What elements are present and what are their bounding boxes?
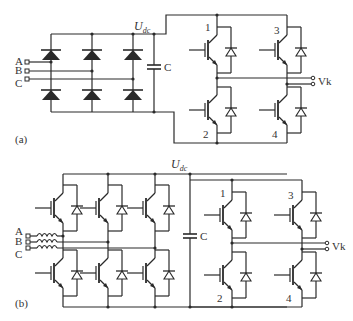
panel-b-label: (b) xyxy=(15,297,28,310)
switch-2-label: 2 xyxy=(217,292,223,304)
capacitor-label: C xyxy=(200,230,207,242)
switch-4-label: 4 xyxy=(272,128,278,140)
udc-label: Udc xyxy=(171,157,188,173)
switch-4-label: 4 xyxy=(286,292,292,304)
panel-a: A B C Udc C 1 2 3 4 Vk (a) xyxy=(15,13,332,146)
input-c-label: C xyxy=(15,77,22,89)
output-vk-label: Vk xyxy=(318,75,332,87)
switch-3-label: 3 xyxy=(274,24,280,36)
udc-label: Udc xyxy=(134,19,151,35)
switch-2-label: 2 xyxy=(203,128,209,140)
circuit-diagram: A B C Udc C 1 2 3 4 Vk (a) xyxy=(0,0,353,321)
capacitor-label: C xyxy=(164,61,171,73)
switch-1-label: 1 xyxy=(220,187,226,199)
input-c-label: C xyxy=(15,248,22,260)
input-b-label: B xyxy=(15,235,22,247)
input-b-label: B xyxy=(15,64,22,76)
output-vk-label: Vk xyxy=(332,240,346,252)
switch-3-label: 3 xyxy=(288,189,294,201)
panel-b: A B C Udc C 1 2 3 4 Vk (b) xyxy=(15,157,346,310)
panel-a-label: (a) xyxy=(15,133,28,146)
switch-1-label: 1 xyxy=(205,21,211,33)
